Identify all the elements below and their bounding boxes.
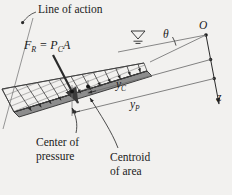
angle-theta-label: θ — [163, 29, 169, 41]
equation-equals: = — [36, 38, 50, 52]
yc-subscript: C — [121, 84, 126, 93]
hydrostatic-force-figure: Line of action FR = PCA θ O z yC yP Cent… — [0, 0, 232, 195]
centroid-of-area-line2: of area — [110, 164, 150, 178]
angle-theta-arc — [150, 35, 206, 62]
line-of-action-leader — [21, 12, 36, 24]
center-of-pressure-label: Center of pressure — [36, 135, 79, 163]
yp-subscript: P — [135, 104, 140, 113]
center-of-pressure-line2: pressure — [36, 149, 79, 163]
line-of-action-label: Line of action — [38, 4, 103, 16]
axis-label-z: z — [217, 92, 221, 104]
area-symbol-A: A — [63, 38, 70, 52]
yc-label: yC — [116, 79, 126, 93]
centroid-of-area-label: Centroid of area — [110, 150, 150, 178]
free-surface-icon — [131, 31, 145, 43]
resultant-force-equation: FR = PCA — [24, 39, 70, 54]
free-surface-line — [118, 35, 206, 52]
center-of-pressure-line1: Center of — [36, 135, 79, 149]
pressure-symbol-P: P — [50, 38, 57, 52]
yp-label: yP — [130, 99, 140, 113]
centroid-of-area-line1: Centroid — [110, 150, 150, 164]
origin-label-O: O — [199, 20, 207, 32]
